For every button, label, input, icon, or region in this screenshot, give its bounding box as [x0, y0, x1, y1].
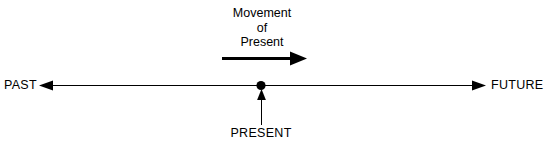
future-axis-label: FUTURE: [491, 79, 544, 92]
movement-caption-line-3: Present: [206, 35, 318, 50]
timeline-diagram: PAST FUTURE Movement of Present PRESENT: [0, 0, 546, 148]
present-marker-label: PRESENT: [201, 127, 321, 140]
movement-arrowhead-icon: [290, 52, 307, 66]
movement-caption-line-1: Movement: [206, 6, 318, 21]
past-arrowhead-icon: [39, 80, 53, 90]
future-arrowhead-icon: [472, 80, 486, 90]
present-marker-dot: [256, 81, 265, 90]
past-axis-label: PAST: [4, 79, 37, 92]
movement-caption-line-2: of: [206, 21, 318, 36]
present-pointer-arrowhead-icon: [257, 89, 266, 100]
movement-caption: Movement of Present: [206, 6, 318, 50]
